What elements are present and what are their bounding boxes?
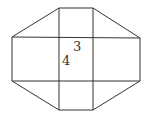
horizontal-line-top — [12, 37, 140, 38]
label-3: 3 — [73, 39, 81, 54]
octagon-outline — [12, 8, 140, 110]
label-4: 4 — [62, 53, 70, 68]
octagon-diagram: 3 4 — [0, 0, 150, 116]
